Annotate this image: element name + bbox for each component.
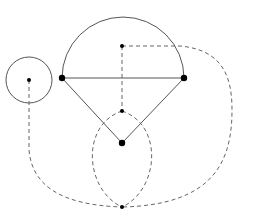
upper-dual-point bbox=[120, 44, 124, 48]
tangent-point bbox=[59, 75, 65, 81]
geometry-diagram bbox=[0, 0, 261, 218]
middle-dual-point bbox=[120, 109, 124, 113]
background bbox=[0, 0, 261, 218]
right-endpoint bbox=[181, 75, 187, 81]
small-circle-center-point bbox=[27, 78, 31, 82]
triangle-apex-point bbox=[119, 140, 125, 146]
bottom-dual-point bbox=[120, 205, 124, 209]
